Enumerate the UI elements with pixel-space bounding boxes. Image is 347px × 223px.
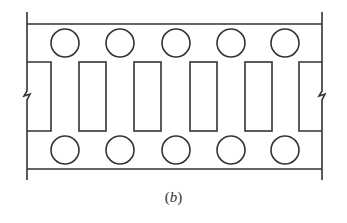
- circle-top-3: [162, 29, 190, 57]
- circle-bottom-3: [162, 136, 190, 164]
- partial-rect-left: [27, 62, 51, 131]
- rect-void-4: [245, 62, 272, 131]
- rect-void-2: [134, 62, 161, 131]
- left-edge-break-line: [24, 12, 30, 180]
- caption-close-paren: ): [177, 189, 182, 205]
- circle-bottom-1: [51, 136, 79, 164]
- figure-caption: (b): [0, 189, 347, 206]
- circle-bottom-5: [271, 136, 299, 164]
- circle-top-1: [51, 29, 79, 57]
- circle-top-2: [106, 29, 134, 57]
- circle-bottom-2: [106, 136, 134, 164]
- right-edge-break-line: [319, 12, 325, 180]
- circle-bottom-4: [217, 136, 245, 164]
- circle-top-4: [217, 29, 245, 57]
- rect-void-3: [190, 62, 217, 131]
- rect-void-1: [79, 62, 106, 131]
- circle-top-5: [271, 29, 299, 57]
